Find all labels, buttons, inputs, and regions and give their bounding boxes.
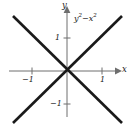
curve-equation-exponent2: 2 [93,12,97,18]
curve-equation-operator: − [82,14,89,23]
y-tick-label-pos1: 1 [55,34,60,42]
coordinate-plane-svg [0,0,132,125]
y-axis-label: y [62,1,67,10]
level-curve-figure: −1 1 1 −1 x y y2−x2 [0,0,132,125]
curve-equation-label: y2−x2 [74,15,97,23]
x-tick-label-neg1: −1 [22,76,34,84]
x-axis-label: x [122,65,127,74]
x-axis-arrowhead [115,68,122,75]
y-tick-label-neg1: −1 [50,100,62,108]
x-tick-label-pos1: 1 [100,76,105,84]
